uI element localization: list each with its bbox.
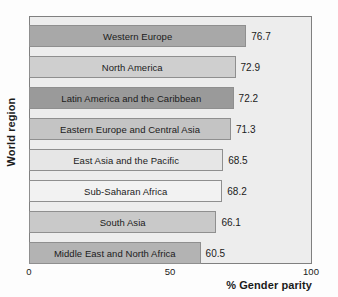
bar[interactable]: Western Europe bbox=[29, 25, 246, 47]
bar-value-label: 72.9 bbox=[236, 56, 260, 78]
bar-row: Latin America and the Caribbean72.2 bbox=[30, 87, 311, 109]
bar-row: Eastern Europe and Central Asia71.3 bbox=[30, 118, 311, 140]
bar-value-label: 60.5 bbox=[201, 242, 225, 264]
chart-figure: World region Western Europe76.7North Ame… bbox=[0, 0, 338, 297]
x-axis-tick-label: 0 bbox=[26, 266, 31, 277]
bar[interactable]: Sub-Saharan Africa bbox=[29, 180, 222, 202]
bar-row: Sub-Saharan Africa68.2 bbox=[30, 180, 311, 202]
x-axis-tick-label: 50 bbox=[165, 266, 176, 277]
bar-category-label: North America bbox=[102, 62, 163, 73]
y-axis-title: World region bbox=[0, 0, 22, 264]
bar-value-label: 71.3 bbox=[231, 118, 255, 140]
bar-category-label: East Asia and the Pacific bbox=[73, 155, 179, 166]
bar-value-label: 72.2 bbox=[234, 87, 258, 109]
bar-value-label: 66.1 bbox=[216, 211, 240, 233]
x-axis: 050100 bbox=[29, 264, 312, 280]
bar[interactable]: East Asia and the Pacific bbox=[29, 149, 223, 171]
bar-row: East Asia and the Pacific68.5 bbox=[30, 149, 311, 171]
bar-category-label: Eastern Europe and Central Asia bbox=[60, 124, 200, 135]
y-axis-title-text: World region bbox=[5, 98, 17, 167]
x-axis-tick-label: 100 bbox=[303, 266, 319, 277]
bar[interactable]: Latin America and the Caribbean bbox=[29, 87, 234, 109]
bar-value-label: 68.2 bbox=[222, 180, 246, 202]
bar-row: Western Europe76.7 bbox=[30, 25, 311, 47]
bar-value-label: 76.7 bbox=[246, 25, 270, 47]
bar-category-label: Latin America and the Caribbean bbox=[61, 93, 201, 104]
bar-row: North America72.9 bbox=[30, 56, 311, 78]
bar-category-label: Sub-Saharan Africa bbox=[84, 186, 167, 197]
plot-area: Western Europe76.7North America72.9Latin… bbox=[29, 16, 312, 264]
bar-category-label: South Asia bbox=[100, 217, 146, 228]
bar-value-label: 68.5 bbox=[223, 149, 247, 171]
bar[interactable]: Eastern Europe and Central Asia bbox=[29, 118, 231, 140]
bar[interactable]: North America bbox=[29, 56, 236, 78]
bar[interactable]: South Asia bbox=[29, 211, 216, 233]
bar-row: South Asia66.1 bbox=[30, 211, 311, 233]
bar-category-label: Middle East and North Africa bbox=[54, 248, 176, 259]
bar-category-label: Western Europe bbox=[103, 31, 172, 42]
bar-row: Middle East and North Africa60.5 bbox=[30, 242, 311, 264]
x-axis-title: % Gender parity bbox=[0, 279, 312, 291]
bar[interactable]: Middle East and North Africa bbox=[29, 242, 201, 264]
